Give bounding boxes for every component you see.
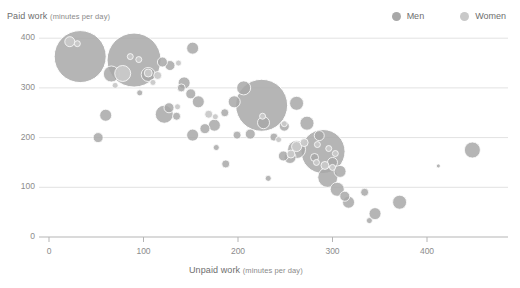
bubble-women[interactable] (115, 65, 131, 81)
bubble-men[interactable] (221, 109, 229, 117)
bubble-women[interactable] (175, 104, 181, 110)
bubble-women[interactable] (112, 82, 118, 88)
bubble-men[interactable] (436, 164, 440, 168)
bubble-women[interactable] (205, 110, 213, 118)
x-tick-label-0: 0 (29, 246, 69, 256)
bubble-men[interactable] (228, 96, 240, 108)
bubble-men[interactable] (54, 31, 106, 83)
bubble-women[interactable] (144, 69, 152, 77)
bubble-men[interactable] (393, 195, 407, 209)
bubble-men[interactable] (164, 103, 174, 113)
bubble-men[interactable] (100, 109, 112, 121)
bubble-men[interactable] (187, 42, 199, 54)
bubble-chart: Paid work (minutes per day) Unpaid work … (0, 0, 520, 288)
bubble-women[interactable] (65, 37, 75, 47)
bubble-women[interactable] (154, 71, 162, 79)
bubble-women[interactable] (175, 60, 181, 66)
bubble-women[interactable] (313, 159, 319, 165)
bubble-men[interactable] (245, 129, 255, 139)
bubble-women[interactable] (212, 114, 218, 120)
y-tick-label-200: 200 (21, 132, 35, 142)
bubble-women[interactable] (136, 57, 142, 63)
bubble-women[interactable] (300, 139, 308, 147)
y-tick-label-400: 400 (21, 32, 35, 42)
x-tick-label-400: 400 (407, 246, 447, 256)
bubble-men[interactable] (137, 90, 143, 96)
bubble-men[interactable] (93, 133, 103, 143)
bubble-women[interactable] (314, 142, 320, 148)
bubble-men[interactable] (265, 175, 271, 181)
bubble-women[interactable] (276, 137, 282, 143)
x-tick-label-100: 100 (124, 246, 164, 256)
bubble-women[interactable] (287, 150, 295, 158)
bubble-women[interactable] (332, 151, 338, 157)
bubble-men[interactable] (464, 142, 480, 158)
bubble-men[interactable] (157, 57, 167, 67)
bubble-men[interactable] (213, 145, 219, 151)
bubble-men[interactable] (187, 129, 199, 141)
bubble-women[interactable] (281, 121, 287, 127)
bubble-men[interactable] (340, 191, 350, 201)
x-tick-label-200: 200 (218, 246, 258, 256)
bubble-men[interactable] (314, 131, 324, 141)
bubble-women[interactable] (127, 54, 133, 60)
bubble-men[interactable] (366, 218, 372, 224)
bubble-women[interactable] (150, 79, 156, 85)
bubble-men[interactable] (300, 116, 314, 130)
bubble-women[interactable] (326, 146, 332, 152)
bubble-men[interactable] (177, 84, 185, 92)
bubble-women[interactable] (330, 164, 336, 170)
bubble-men[interactable] (237, 81, 251, 95)
bubble-men[interactable] (200, 124, 210, 134)
bubble-women[interactable] (321, 161, 329, 169)
bubble-men[interactable] (186, 89, 196, 99)
y-tick-label-100: 100 (21, 181, 35, 191)
bubble-women[interactable] (74, 41, 80, 47)
y-tick-label-300: 300 (21, 82, 35, 92)
bubble-men[interactable] (173, 112, 181, 120)
bubble-men[interactable] (233, 131, 241, 139)
x-tick-label-300: 300 (313, 246, 353, 256)
bubble-men[interactable] (290, 96, 304, 110)
plot-area (0, 0, 520, 288)
bubble-men[interactable] (361, 188, 369, 196)
y-tick-label-0: 0 (30, 231, 35, 241)
bubble-women[interactable] (260, 113, 266, 119)
bubble-men[interactable] (222, 160, 230, 168)
